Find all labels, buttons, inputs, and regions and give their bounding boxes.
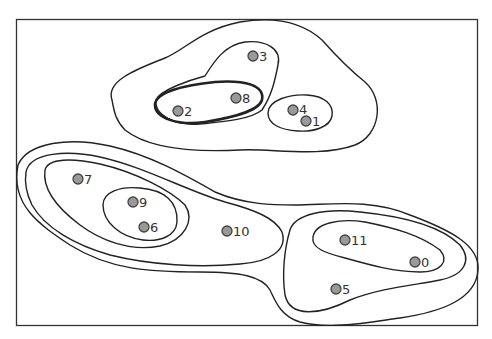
node-5-marker[interactable] <box>331 284 341 294</box>
node-4-label: 4 <box>299 102 307 117</box>
node-0-label: 0 <box>421 255 429 270</box>
node-6-label: 6 <box>150 220 158 235</box>
node-7-label: 7 <box>84 172 92 187</box>
node-1-marker[interactable] <box>301 116 311 126</box>
node-3[interactable]: 3 <box>248 49 267 64</box>
node-11-label: 11 <box>351 233 368 248</box>
node-10-marker[interactable] <box>222 226 232 236</box>
node-0[interactable]: 0 <box>410 255 429 270</box>
node-4[interactable]: 4 <box>288 102 307 117</box>
node-9-marker[interactable] <box>128 197 138 207</box>
contour-left-outer <box>25 153 283 265</box>
node-5-label: 5 <box>342 282 350 297</box>
node-2-marker[interactable] <box>173 106 183 116</box>
node-2-label: 2 <box>184 104 192 119</box>
node-8[interactable]: 8 <box>231 91 250 106</box>
node-6-marker[interactable] <box>139 222 149 232</box>
node-11-marker[interactable] <box>340 235 350 245</box>
node-11[interactable]: 11 <box>340 233 368 248</box>
node-3-marker[interactable] <box>248 51 258 61</box>
node-10[interactable]: 10 <box>222 224 250 239</box>
contour-right-outer <box>284 211 466 312</box>
node-9[interactable]: 9 <box>128 195 147 210</box>
contour-top-outer <box>111 20 377 152</box>
node-7-marker[interactable] <box>73 174 83 184</box>
node-5[interactable]: 5 <box>331 282 350 297</box>
node-8-label: 8 <box>242 91 250 106</box>
cluster-diagram: 0 1 2 3 4 5 6 7 8 9 10 11 <box>0 0 492 339</box>
node-7[interactable]: 7 <box>73 172 92 187</box>
node-2[interactable]: 2 <box>173 104 192 119</box>
contour-left-7-9-6 <box>45 160 189 248</box>
node-1-label: 1 <box>312 114 320 129</box>
node-3-label: 3 <box>259 49 267 64</box>
node-8-marker[interactable] <box>231 93 241 103</box>
node-0-marker[interactable] <box>410 257 420 267</box>
node-4-marker[interactable] <box>288 105 298 115</box>
node-9-label: 9 <box>139 195 147 210</box>
node-10-label: 10 <box>233 224 250 239</box>
node-6[interactable]: 6 <box>139 220 158 235</box>
